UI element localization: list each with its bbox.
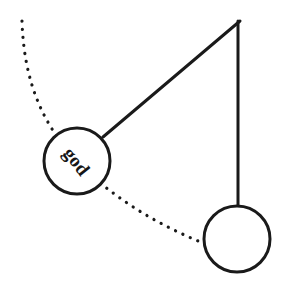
- diagram-canvas: god: [0, 0, 289, 287]
- rod-displaced: [103, 21, 240, 137]
- pendulum-diagram: god: [0, 0, 289, 287]
- bob-equilibrium: [204, 206, 270, 272]
- swing-path-dotted-arc: [22, 21, 203, 243]
